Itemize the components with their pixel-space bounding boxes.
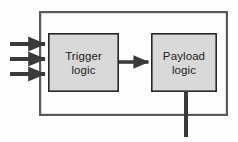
payload-logic-block <box>152 34 216 91</box>
trigger-logic-block <box>49 34 118 91</box>
diagram-canvas <box>0 0 238 142</box>
block-diagram: Trigger logic Payload logic <box>0 0 238 142</box>
